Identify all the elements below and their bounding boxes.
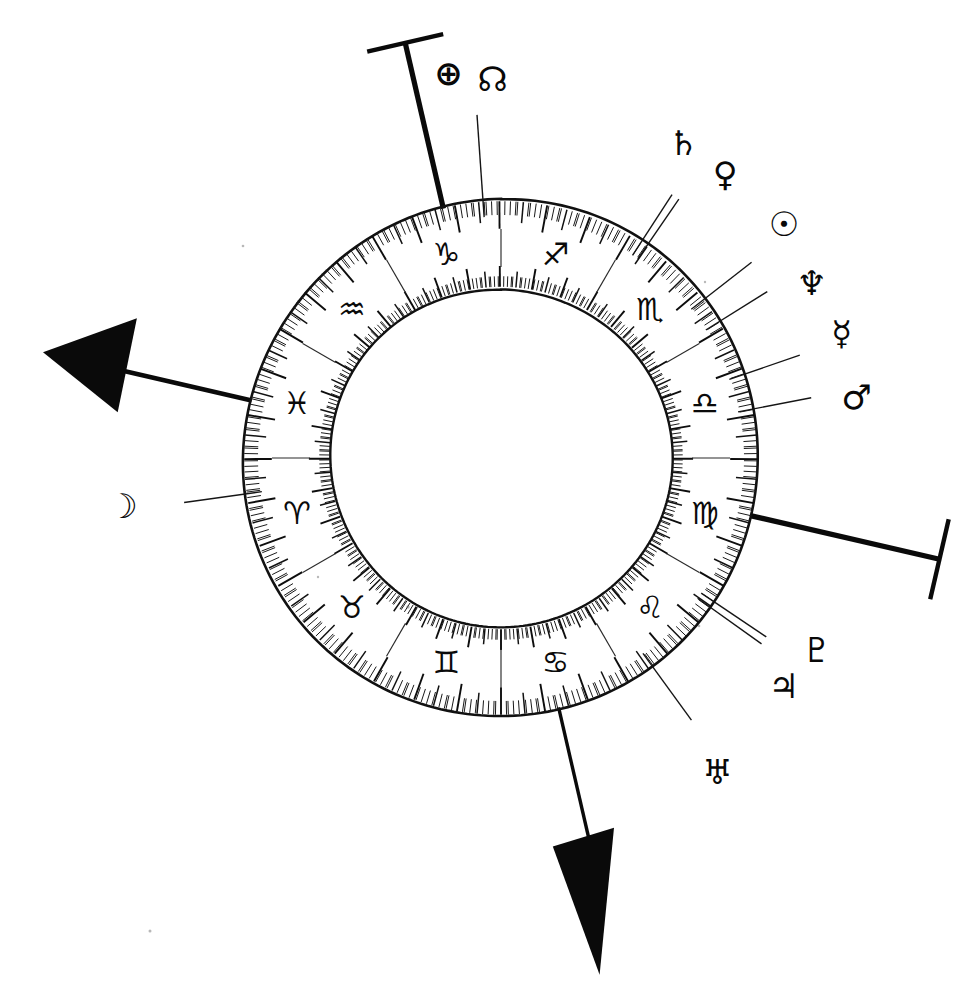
degree-tick-inner — [557, 286, 560, 296]
paper-speck — [698, 625, 701, 628]
mercury-icon: ☿ — [831, 313, 852, 353]
degree-tick-outer — [540, 684, 545, 711]
degree-tick-outer — [412, 217, 422, 243]
degree-tick-outer — [596, 222, 601, 235]
degree-tick-outer — [304, 605, 325, 623]
degree-tick-outer — [580, 217, 590, 243]
sign-divider-scorpio — [597, 260, 616, 293]
degree-tick-outer — [616, 236, 630, 260]
degree-tick-outer — [247, 496, 261, 498]
degree-tick-outer — [414, 674, 423, 700]
degree-tick-outer — [714, 334, 726, 341]
degree-tick-outer — [257, 379, 270, 383]
degree-tick-inner — [430, 291, 434, 301]
degree-tick-outer — [649, 633, 667, 654]
degree-tick-outer — [264, 552, 277, 557]
degree-tick-inner — [488, 629, 489, 640]
degree-ticks-group — [244, 201, 758, 715]
degree-tick-inner — [451, 283, 454, 293]
degree-tick-inner — [655, 378, 664, 383]
degree-tick-outer — [523, 693, 525, 714]
degree-tick-outer — [479, 202, 481, 223]
degree-tick-outer — [733, 530, 746, 534]
degree-tick-outer — [577, 689, 581, 702]
degree-tick-outer — [246, 428, 260, 430]
degree-tick-outer — [718, 568, 730, 574]
degree-tick-outer — [278, 572, 302, 586]
degree-tick-outer — [251, 513, 264, 516]
degree-tick-inner — [672, 472, 688, 473]
paper-speck — [242, 245, 245, 248]
fortune-icon: ⊕ — [434, 53, 463, 93]
degree-tick-inner — [559, 619, 566, 639]
degree-tick-outer — [744, 471, 758, 472]
pluto-icon: ♇ — [802, 630, 832, 670]
degree-tick-outer — [247, 422, 261, 424]
degree-tick-outer — [662, 266, 671, 276]
degree-tick-outer — [267, 557, 280, 563]
sign-glyph-gemini: ♊ — [433, 644, 461, 680]
degree-tick-outer — [297, 303, 308, 311]
degree-tick-inner — [562, 618, 566, 628]
moon-icon: ☽ — [107, 486, 137, 526]
pointer-line-jupiter — [698, 598, 762, 644]
degree-tick-outer — [726, 362, 739, 367]
degree-tick-inner — [665, 508, 675, 511]
paper-speck — [704, 281, 706, 283]
degree-tick-outer — [725, 552, 738, 557]
degree-tick-outer — [698, 307, 709, 315]
degree-tick-outer — [272, 568, 284, 574]
degree-tick-inner — [466, 626, 468, 636]
degree-tick-outer — [681, 621, 691, 630]
degree-tick-inner — [332, 531, 346, 538]
degree-tick-outer — [483, 700, 484, 714]
degree-tick-inner — [666, 505, 676, 508]
degree-tick-outer — [743, 430, 757, 432]
degree-tick-outer — [695, 604, 706, 612]
degree-tick-outer — [732, 379, 745, 383]
degree-tick-outer — [439, 694, 442, 707]
degree-tick-outer — [666, 270, 675, 280]
sign-glyph-pisces: ♓ — [283, 385, 311, 421]
degree-tick-inner — [323, 420, 333, 422]
degree-tick-inner — [586, 607, 596, 625]
degree-tick-outer — [326, 270, 335, 280]
pointer-line-uranus — [643, 653, 691, 720]
degree-tick-outer — [518, 700, 519, 714]
degree-tick-outer — [288, 594, 299, 602]
sign-divider-aries — [303, 554, 336, 573]
sign-glyph-libra: ♎ — [691, 385, 719, 421]
degree-tick-outer — [572, 691, 576, 704]
degree-tick-outer — [735, 524, 748, 528]
degree-tick-inner — [570, 615, 574, 625]
degree-tick-outer — [743, 441, 757, 442]
degree-tick-outer — [311, 621, 321, 630]
degree-tick-outer — [736, 435, 757, 437]
degree-tick-outer — [592, 220, 597, 233]
degree-tick-outer — [680, 623, 690, 632]
degree-tick-outer — [246, 489, 260, 491]
degree-tick-outer — [679, 283, 689, 292]
degree-tick-inner — [427, 615, 431, 625]
degree-tick-outer — [405, 220, 410, 233]
degree-tick-outer — [743, 476, 757, 477]
axis-arrowhead-asc — [43, 318, 137, 412]
inner-ring-circle — [330, 289, 672, 627]
degree-tick-outer — [510, 201, 511, 215]
sign-divider-taurus — [387, 623, 406, 656]
degree-tick-outer — [736, 478, 757, 480]
planet-glyphs-group: ⊕☊♄♀☉♆☿♂♇♃♅☽ — [107, 53, 871, 792]
degree-tick-outer — [253, 392, 273, 397]
astrology-chart-canvas: ♐♏♎♍♌♋♊♉♈♓♒♑ ⊕☊♄♀☉♆☿♂♇♃♅☽ — [0, 0, 955, 991]
degree-tick-inner — [664, 402, 674, 405]
paper-speck — [317, 576, 319, 578]
degree-tick-inner — [338, 378, 347, 383]
degree-tick-inner — [545, 277, 549, 292]
degree-tick-outer — [742, 428, 756, 430]
degree-tick-outer — [374, 657, 388, 681]
degree-tick-outer — [329, 639, 338, 649]
degree-tick-inner — [320, 410, 335, 414]
degree-tick-outer — [529, 203, 531, 217]
degree-tick-outer — [692, 608, 703, 617]
degree-tick-outer — [475, 700, 476, 714]
